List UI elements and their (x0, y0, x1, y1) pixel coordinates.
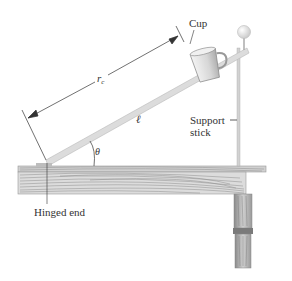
rc-label: rc (97, 72, 105, 86)
support-label-line2: stick (190, 126, 211, 138)
rc-dimension (22, 26, 184, 160)
cup-leader-line (190, 30, 194, 44)
angle-arc (90, 141, 95, 166)
support-stick (230, 48, 240, 166)
length-label: ℓ (136, 113, 141, 125)
support-label-line1: Support (190, 114, 225, 126)
cup-label: Cup (189, 17, 208, 29)
table-leg (233, 194, 253, 268)
hinged-end-label: Hinged end (34, 206, 86, 218)
diagram-svg: Cup rc ℓ θ Support stick Hinged end (0, 0, 292, 281)
diagram-canvas: Cup rc ℓ θ Support stick Hinged end (0, 0, 292, 281)
angle-label: θ (95, 146, 100, 157)
pin-ball (238, 26, 251, 51)
